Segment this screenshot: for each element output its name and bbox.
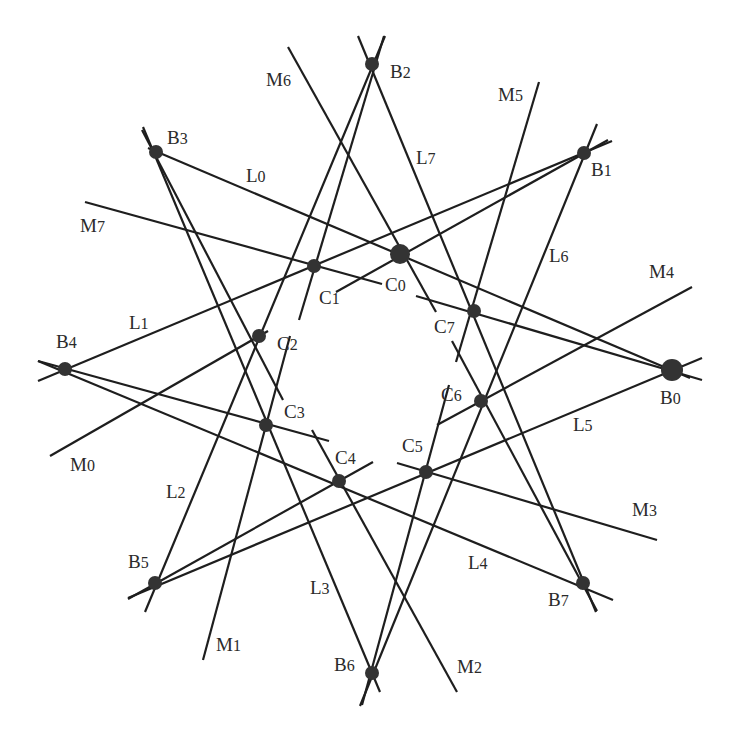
line-m7-seg1 xyxy=(416,296,702,380)
point-b0 xyxy=(661,359,683,381)
label-l4: L4 xyxy=(468,553,488,572)
points-layer xyxy=(58,57,683,680)
point-b5 xyxy=(148,576,162,590)
intersection-point-p3 xyxy=(259,418,273,432)
label-l6: L6 xyxy=(549,246,569,265)
label-l1: L1 xyxy=(129,313,149,332)
point-b2 xyxy=(365,57,379,71)
label-b2: B2 xyxy=(390,62,411,81)
label-c0: C0 xyxy=(385,275,406,294)
label-b3: B3 xyxy=(167,128,188,147)
point-b3 xyxy=(149,145,163,159)
label-m4: M4 xyxy=(649,262,674,281)
label-b0: B0 xyxy=(660,388,681,407)
line-l1 xyxy=(38,141,612,381)
intersection-point-p4 xyxy=(332,474,346,488)
label-b5: B5 xyxy=(128,552,149,571)
label-m2: M2 xyxy=(457,657,482,676)
line-l2 xyxy=(145,36,385,612)
label-c6: C6 xyxy=(441,385,462,404)
label-c2: C2 xyxy=(277,334,298,353)
point-b6 xyxy=(365,666,379,680)
label-l3: L3 xyxy=(310,578,330,597)
label-b7: B7 xyxy=(548,590,569,609)
point-b7 xyxy=(576,576,590,590)
line-m1-seg1 xyxy=(299,36,384,320)
label-b4: B4 xyxy=(56,332,77,351)
label-l5: L5 xyxy=(573,415,593,434)
line-m6-seg0 xyxy=(288,47,436,312)
label-l2: L2 xyxy=(166,482,186,501)
intersection-point-p5 xyxy=(419,465,433,479)
label-c3: C3 xyxy=(284,402,305,421)
label-c5: C5 xyxy=(402,436,423,455)
label-m1: M1 xyxy=(216,635,241,654)
label-m0: M0 xyxy=(70,455,95,474)
label-c7: C7 xyxy=(434,317,455,336)
intersection-point-p7 xyxy=(467,304,481,318)
label-m6: M6 xyxy=(266,70,291,89)
label-l7: L7 xyxy=(416,148,436,167)
label-m3: M3 xyxy=(632,500,657,519)
intersection-point-p1 xyxy=(307,259,321,273)
label-c4: C4 xyxy=(335,448,356,467)
line-configuration-drawing xyxy=(0,0,733,740)
label-m5: M5 xyxy=(498,85,523,104)
lines-layer xyxy=(38,36,702,706)
line-l3 xyxy=(143,127,380,692)
line-m7-seg0 xyxy=(85,202,382,284)
line-m3-seg0 xyxy=(397,463,657,540)
label-m7: M7 xyxy=(80,216,105,235)
point-b4 xyxy=(58,362,72,376)
line-l5 xyxy=(128,358,702,598)
label-c1: C1 xyxy=(319,288,340,307)
label-b6: B6 xyxy=(334,655,355,674)
point-b1 xyxy=(577,146,591,160)
intersection-point-p2 xyxy=(252,329,266,343)
line-m1-seg0 xyxy=(203,336,290,660)
label-l0: L0 xyxy=(246,166,266,185)
line-m0-seg1 xyxy=(336,140,608,292)
diagram-canvas: L0L1L2L3L4L5L6L7M0M1M2M3M4M5M6M7B0B1B2B3… xyxy=(0,0,733,740)
label-b1: B1 xyxy=(591,160,612,179)
intersection-point-p6 xyxy=(474,394,488,408)
intersection-point-p0 xyxy=(390,244,410,264)
